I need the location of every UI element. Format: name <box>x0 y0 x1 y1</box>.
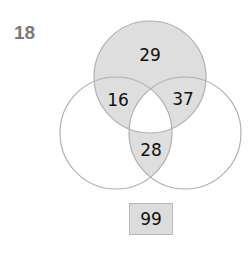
venn-diagram: 29 16 37 28 <box>0 0 252 253</box>
label-top-right: 37 <box>172 89 194 109</box>
label-top-left: 16 <box>107 90 129 110</box>
total-box: 99 <box>129 203 173 235</box>
label-top-only: 29 <box>139 45 161 65</box>
label-left-right: 28 <box>140 140 162 160</box>
